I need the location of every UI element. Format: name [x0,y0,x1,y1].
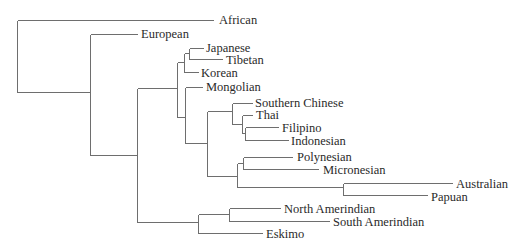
label-african: African [219,13,257,27]
label-indonesian: Indonesian [291,134,346,148]
label-thai: Thai [256,108,279,122]
label-australian: Australian [456,177,508,191]
label-tibetan: Tibetan [226,53,264,67]
label-european: European [141,27,189,41]
label-mongolian: Mongolian [206,80,261,94]
label-eskimo: Eskimo [266,227,304,241]
tree-branches [0,0,513,251]
label-south-amerindian: South Amerindian [333,215,424,229]
label-korean: Korean [201,66,238,80]
label-filipino: Filipino [282,121,322,135]
label-micronesian: Micronesian [323,163,385,177]
label-papuan: Papuan [431,190,468,204]
label-north-amerindian: North Amerindian [284,202,375,216]
label-polynesian: Polynesian [297,150,352,164]
